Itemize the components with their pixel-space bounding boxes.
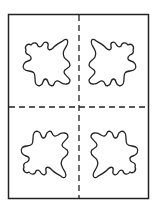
- folded-paper-diagram: [0, 0, 158, 207]
